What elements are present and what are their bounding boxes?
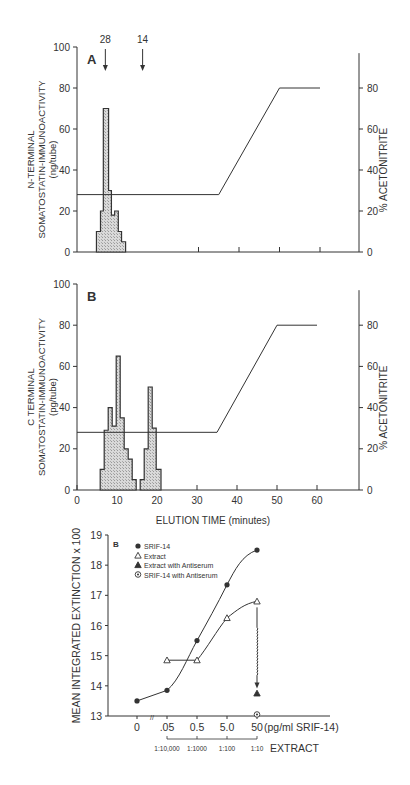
immunoactivity-histogram — [96, 109, 125, 253]
y-right-tick-label: 0 — [367, 485, 373, 496]
y-tick-label: 20 — [59, 443, 71, 454]
x-tick-label: 20 — [151, 495, 163, 506]
legend-label: SRIF-14 with Antiserum — [144, 572, 218, 579]
srif14-point — [194, 638, 199, 643]
y-right-tick-label: 20 — [367, 206, 379, 217]
y-axis-title: SOMATOSTATIN-IMMUNOACTIVITY — [36, 80, 47, 239]
y-tick-label: 80 — [59, 320, 71, 331]
panel-b-chart: 0204060801000204060800102030405060BC TER… — [25, 279, 389, 527]
y-right-tick-label: 60 — [367, 361, 379, 372]
y-right-tick-label: 80 — [367, 83, 379, 94]
srif14-point — [224, 582, 229, 587]
x-tick-label: 30 — [191, 495, 203, 506]
y-tick-label: 100 — [53, 42, 70, 53]
y-axis-title: C TERMINAL — [25, 368, 36, 425]
y-tick-label: 80 — [59, 83, 71, 94]
x-tick-label: 5.0 — [220, 721, 235, 733]
y-tick-label: 14 — [90, 680, 102, 692]
y-tick-label: 20 — [59, 206, 71, 217]
axis-break-icon: // — [150, 714, 154, 721]
y-right-tick-label: 20 — [367, 443, 379, 454]
extract-dilution-label: 1:1000 — [187, 745, 207, 752]
acetonitrile-gradient-line — [77, 325, 317, 432]
elution-marker-label: 14 — [137, 34, 149, 45]
y-tick-label: 40 — [59, 402, 71, 413]
x-tick-label: 50 — [251, 721, 263, 733]
x-tick-label: 0 — [74, 495, 80, 506]
srif14-antiserum-point-center — [256, 713, 258, 715]
y-right-tick-label: 80 — [367, 320, 379, 331]
arrow-down-icon — [140, 65, 145, 71]
y-axis-title: (ng/tube) — [47, 140, 58, 178]
y-right-tick-label: 60 — [367, 124, 379, 135]
figure: 020406080100020406080AN-TERMINALSOMATOST… — [0, 0, 410, 785]
y-tick-label: 40 — [59, 165, 71, 176]
x-axis-unit: (pg/ml SRIF-14) — [264, 721, 339, 733]
legend-label: Extract — [144, 553, 166, 560]
y-tick-label: 60 — [59, 124, 71, 135]
extract-axis-title: EXTRACT — [270, 742, 320, 754]
x-axis-title: ELUTION TIME (minutes) — [156, 515, 270, 526]
panel-letter: B — [113, 540, 119, 549]
y-right-tick-label: 0 — [367, 247, 373, 258]
x-tick-label: 60 — [311, 495, 323, 506]
y-tick-label: 13 — [90, 710, 102, 722]
bioassay-chart: 131415161718190.050.55.050//(pg/ml SRIF-… — [70, 528, 339, 754]
y-right-axis-title: % ACETONITRITE — [378, 365, 389, 450]
x-tick-label: 0 — [134, 721, 140, 733]
x-tick-label: 0.5 — [190, 721, 205, 733]
y-tick-label: 15 — [90, 650, 102, 662]
y-tick-label: 19 — [90, 529, 102, 541]
x-tick-label: 10 — [111, 495, 123, 506]
y-tick-label: 100 — [53, 279, 70, 290]
y-axis-title: (pg/tube) — [47, 378, 58, 416]
extract-dilution-label: 1:10,000 — [154, 745, 180, 752]
y-tick-label: 60 — [59, 361, 71, 372]
y-axis-title: SOMATOSTATIN-IMMUNOACTIVITY — [36, 317, 47, 476]
y-right-axis-title: % ACETONITRITE — [378, 128, 389, 213]
legend-extract-antiserum-icon — [135, 562, 141, 568]
x-tick-label: .05 — [160, 721, 175, 733]
extract-point — [254, 598, 260, 604]
y-tick-label: 17 — [90, 589, 102, 601]
y-tick-label: 0 — [64, 247, 70, 258]
immunoactivity-histogram — [100, 356, 161, 490]
x-tick-label: 50 — [271, 495, 283, 506]
legend-srif14-icon — [135, 543, 140, 548]
y-tick-label: 18 — [90, 559, 102, 571]
legend-srif14-antiserum-icon-center — [137, 574, 139, 576]
y-axis-title: N-TERMINAL — [25, 130, 36, 188]
extract-curve — [167, 601, 257, 660]
y-right-tick-label: 40 — [367, 165, 379, 176]
arrow-down-icon — [255, 682, 260, 688]
extract-dilution-label: 1:10 — [251, 745, 264, 752]
srif14-point — [254, 547, 259, 552]
extract-antiserum-point — [254, 690, 260, 696]
elution-marker-label: 28 — [100, 34, 112, 45]
srif14-point — [164, 688, 169, 693]
y-tick-label: 0 — [64, 485, 70, 496]
panel-letter: B — [87, 289, 96, 304]
srif14-point — [134, 698, 139, 703]
legend-extract-icon — [135, 552, 141, 558]
panel-letter: A — [87, 52, 97, 67]
y-right-tick-label: 40 — [367, 402, 379, 413]
x-tick-label: 40 — [231, 495, 243, 506]
wavy-arrow — [257, 607, 258, 684]
legend-label: Extract with Antiserum — [144, 562, 213, 569]
acetonitrile-gradient-line — [77, 88, 320, 195]
extract-dilution-label: 1:100 — [219, 745, 236, 752]
legend-label: SRIF-14 — [144, 543, 170, 550]
arrow-down-icon — [103, 65, 108, 71]
y-axis-title: MEAN INTEGRATED EXTINCTION x 100 — [70, 528, 82, 723]
y-tick-label: 16 — [90, 620, 102, 632]
panel-a-chart: 020406080100020406080AN-TERMINALSOMATOST… — [25, 34, 389, 258]
